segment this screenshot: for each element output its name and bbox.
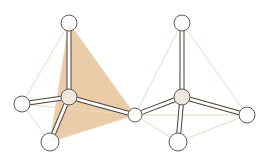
diagram-canvas (0, 0, 269, 168)
ligand-atom (239, 107, 255, 123)
ligand-atom (169, 133, 187, 151)
ligand-atom (14, 96, 30, 112)
bond (190, 99, 240, 113)
shaded-face (50, 23, 135, 142)
ligand-atom (41, 133, 59, 151)
tetrahedron-edge (178, 115, 247, 142)
central-atom (174, 89, 190, 105)
shared-bridging-atom (128, 108, 142, 122)
tetrahedra-diagram (0, 0, 269, 168)
shaded-faces (50, 23, 135, 142)
atoms (14, 15, 255, 151)
ligand-atom (174, 15, 190, 31)
ligand-atom (61, 15, 77, 31)
central-atom (61, 89, 77, 105)
bond (142, 100, 175, 113)
